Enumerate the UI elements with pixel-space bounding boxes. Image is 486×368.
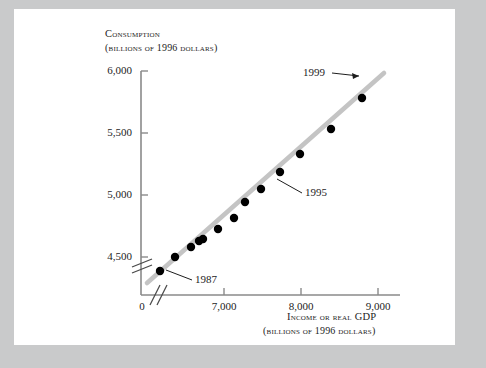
data-point xyxy=(230,214,238,222)
data-point xyxy=(156,267,164,275)
y-tick-label: 6,000 xyxy=(86,64,132,76)
annotation-leaders xyxy=(166,73,359,280)
annotation-1987: 1987 xyxy=(195,273,217,285)
x-axis-ticks xyxy=(224,288,378,295)
y-tick-label: 4,500 xyxy=(86,250,132,262)
annotation-1995: 1995 xyxy=(305,186,327,198)
y-tick-label: 5,500 xyxy=(86,126,132,138)
data-point xyxy=(296,150,304,158)
y-axis-ticks xyxy=(141,71,148,257)
data-point xyxy=(358,94,366,102)
figure-page: Consumption (billions of 1996 dollars) 6… xyxy=(0,0,486,368)
data-point xyxy=(214,225,222,233)
x-tick-label-zero: 0 xyxy=(115,300,169,312)
data-point xyxy=(327,125,335,133)
x-tick-label: 7,000 xyxy=(197,300,251,312)
scatter-plot xyxy=(14,9,455,345)
data-point xyxy=(257,185,265,193)
x-axis-title-line1: Income or real GDP xyxy=(287,311,376,322)
data-point xyxy=(187,243,195,251)
y-axis-title-line2: (billions of 1996 dollars) xyxy=(105,42,217,53)
x-axis-title-line2: (billions of 1996 dollars) xyxy=(263,325,375,336)
data-point xyxy=(171,253,179,261)
y-axis-title-line1: Consumption xyxy=(105,28,160,39)
annotation-1999: 1999 xyxy=(303,66,325,78)
data-point xyxy=(241,198,249,206)
data-point xyxy=(276,168,284,176)
y-tick-label: 5,000 xyxy=(86,188,132,200)
data-point xyxy=(199,235,207,243)
figure-panel: Consumption (billions of 1996 dollars) 6… xyxy=(14,9,455,345)
trend-line xyxy=(147,73,384,283)
